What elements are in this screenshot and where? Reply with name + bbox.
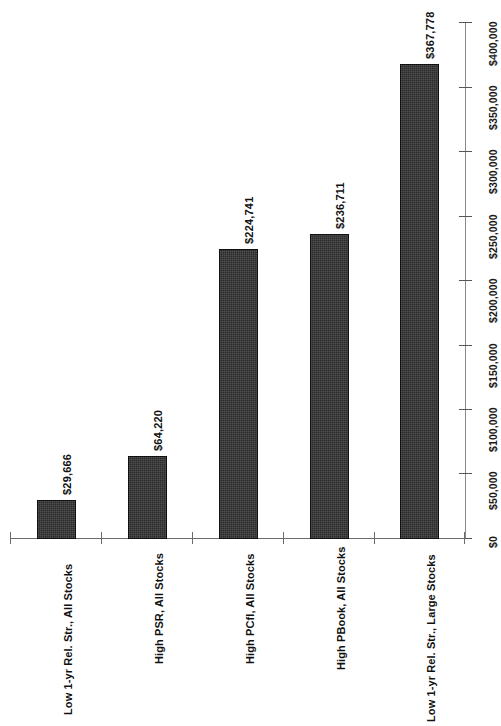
value-axis-label-200k: $200,000 [487, 278, 499, 323]
category-label-1: High PSR, All Stocks [153, 553, 165, 664]
value-axis-label-150k: $150,000 [487, 343, 499, 388]
value-axis-tick-400k [459, 22, 472, 23]
bar-0 [37, 500, 76, 539]
category-axis-tick-0 [10, 532, 11, 544]
category-label-3: High PBook, All Stocks [335, 547, 347, 670]
category-axis-tick-5 [464, 532, 465, 544]
bar-value-0: $29,666 [61, 454, 73, 495]
value-axis-label-100k: $100,000 [487, 407, 499, 452]
category-label-2: High PCfl, All Stocks [244, 554, 256, 664]
bar-4 [400, 64, 439, 539]
bar-3 [310, 234, 349, 539]
bar-1 [128, 456, 167, 539]
bar-value-4: $367,778 [424, 12, 436, 59]
bar-value-2: $224,741 [243, 197, 255, 244]
bar-2 [219, 249, 258, 539]
bar-value-1: $64,220 [152, 410, 164, 451]
category-axis-tick-3 [283, 532, 284, 544]
value-axis-tick-300k [459, 151, 472, 152]
bar-chart: $0 $50,000 $100,000 $150,000 $200,000 $2… [0, 0, 501, 726]
value-axis-tick-250k [459, 216, 472, 217]
value-axis-tick-150k [459, 345, 472, 346]
value-axis-tick-100k [459, 409, 472, 410]
category-axis-tick-1 [101, 532, 102, 544]
value-axis-tick-200k [459, 280, 472, 281]
bar-value-3: $236,711 [334, 182, 346, 229]
category-label-0: Low 1-yr Rel. Str., All Stocks [62, 564, 74, 715]
value-axis-label-400k: $400,000 [487, 21, 499, 66]
category-axis-tick-4 [374, 532, 375, 544]
value-axis-label-0: $0 [487, 536, 499, 548]
value-axis-label-300k: $300,000 [487, 149, 499, 194]
category-axis-tick-2 [192, 532, 193, 544]
value-axis-label-50k: $50,000 [487, 471, 499, 510]
value-axis-tick-350k [459, 87, 472, 88]
value-axis-label-350k: $350,000 [487, 85, 499, 130]
value-axis-tick-50k [459, 473, 472, 474]
value-axis-label-250k: $250,000 [487, 214, 499, 259]
category-label-4: Low 1-yr Rel. Str., Large Stocks [425, 554, 437, 722]
